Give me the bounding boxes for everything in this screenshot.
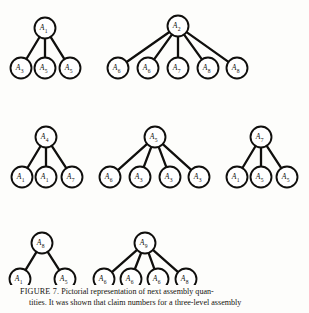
tree-edge bbox=[51, 37, 65, 59]
figure-container: A1A3A5A5A2A6A6A7A8A8A4A1A1A7A5A6A3A3A3A7… bbox=[0, 0, 309, 313]
assembly-tree-diagram: A1A3A5A5A2A6A6A7A8A8A4A1A1A7A5A6A3A3A3A7… bbox=[0, 0, 309, 285]
tree-edge bbox=[149, 253, 155, 269]
tree-edge bbox=[135, 253, 141, 269]
assembly-tree: A4A1A1A7 bbox=[12, 127, 83, 188]
tree-edge bbox=[154, 35, 172, 60]
figure-caption: FIGURE 7. Pictorial representation of ne… bbox=[20, 286, 303, 309]
tree-edge bbox=[242, 146, 255, 168]
assembly-tree: A7A1A5A5 bbox=[227, 127, 298, 188]
tree-edge bbox=[144, 147, 152, 167]
caption-text-line-2: tities. It was shown that claim numbers … bbox=[20, 297, 303, 308]
tree-edge bbox=[48, 252, 60, 270]
tree-edge bbox=[26, 37, 39, 59]
assembly-tree: A2A6A6A7A8A8 bbox=[108, 16, 248, 79]
tree-edge bbox=[267, 146, 282, 168]
assembly-tree: A5A6A3A3A3 bbox=[100, 127, 210, 188]
assembly-tree: A1A3A5A5 bbox=[11, 18, 81, 79]
figure-label: FIGURE 7. bbox=[20, 287, 59, 296]
tree-edge bbox=[25, 252, 36, 270]
tree-edge bbox=[184, 35, 202, 60]
assembly-tree: A8A1A5 bbox=[10, 233, 76, 286]
assembly-tree: A9A6A6A6A8 bbox=[94, 233, 197, 286]
tree-edge bbox=[159, 147, 167, 167]
tree-edge bbox=[52, 146, 67, 168]
tree-edge bbox=[27, 146, 40, 168]
tree-layer: A1A3A5A5A2A6A6A7A8A8A4A1A1A7A5A6A3A3A3A7… bbox=[10, 16, 298, 286]
caption-text-line-1: Pictorial representation of next assembl… bbox=[61, 287, 214, 296]
